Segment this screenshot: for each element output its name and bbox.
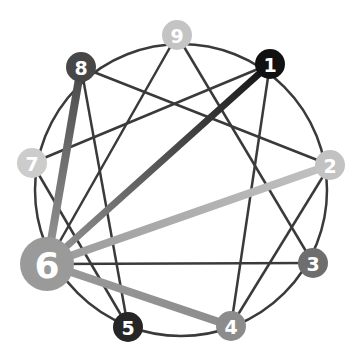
- node-1: 1: [255, 49, 285, 79]
- node-label: 2: [323, 155, 336, 177]
- thick-edge-6-4: [47, 264, 231, 326]
- node-3: 3: [298, 248, 328, 278]
- node-5: 5: [113, 312, 143, 342]
- node-4: 4: [216, 311, 246, 341]
- node-label: 6: [34, 245, 59, 286]
- node-label: 9: [170, 25, 183, 47]
- node-label: 5: [121, 317, 134, 339]
- edge-3-6: [47, 263, 313, 264]
- thick-edge-6-2: [47, 165, 330, 264]
- thick-edge-6-1: [47, 64, 270, 264]
- node-label: 3: [306, 253, 319, 275]
- node-label: 8: [74, 57, 87, 79]
- thick-edges: [47, 64, 330, 326]
- node-7: 7: [17, 148, 47, 178]
- node-label: 1: [263, 54, 276, 76]
- node-8: 8: [66, 52, 96, 82]
- enneagram-diagram: 123456789: [0, 0, 363, 362]
- node-label: 4: [224, 316, 237, 338]
- node-9: 9: [162, 20, 192, 50]
- node-label: 7: [25, 153, 38, 175]
- node-6: 6: [20, 237, 74, 291]
- node-2: 2: [315, 150, 345, 180]
